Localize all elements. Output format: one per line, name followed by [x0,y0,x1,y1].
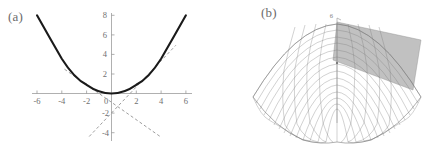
parabola-tangent-plot: -6 -4 -2 0 2 4 6 8 6 4 2 [0,0,215,149]
x-tick-label: -2 [83,96,90,106]
figure-container: (a) -6 -4 -2 0 2 4 6 [0,0,439,149]
z-axis-tick [337,18,341,20]
x-tick-label: 2 [134,96,138,106]
x-tick-label: 4 [159,96,164,106]
panel-a: (a) -6 -4 -2 0 2 4 6 [0,0,215,149]
y-axis-ticks [112,15,115,132]
surface-tangent-plane-plot: 6 [215,0,439,149]
y-tick-label: 6 [103,30,107,40]
y-tick-label: 2 [103,69,107,79]
z-tick-label: 6 [330,12,334,19]
panel-b-label: (b) [261,5,277,21]
x-tick-label: -4 [58,96,66,106]
tangent-plane [333,22,421,90]
y-tick-label: -4 [102,128,110,138]
x-tick-label: -6 [33,96,40,106]
panel-a-label: (a) [8,9,23,25]
panel-b: (b) 6 [215,0,439,149]
x-axis-tick-labels: -6 -4 -2 0 2 4 6 [33,96,188,106]
tangency-point [336,62,338,64]
y-tick-label: 4 [103,49,108,59]
y-tick-label: 8 [103,10,107,20]
x-tick-label: 6 [184,96,188,106]
